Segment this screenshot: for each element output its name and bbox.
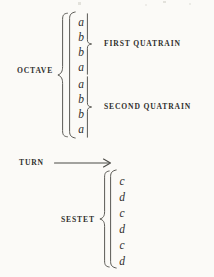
sestet-rhyme-3: c (116, 208, 128, 220)
first-quatrain-brace (86, 13, 95, 75)
second-quatrain-brace (86, 76, 95, 138)
first-quatrain-label: FIRST QUATRAIN (104, 39, 181, 48)
second-quatrain-label: SECOND QUATRAIN (104, 102, 191, 111)
sestet-rhyme-1: c (116, 176, 128, 188)
scan-speckle (78, 2, 81, 5)
sestet-rhyme-5: c (116, 240, 128, 252)
sestet-rhyme-2: d (116, 192, 128, 204)
sonnet-structure-diagram: OCTAVE a b b a a b b a FIRST QUATRAIN SE… (0, 0, 214, 277)
sestet-rhyme-6: d (116, 256, 128, 268)
scan-speckle (145, 4, 147, 6)
sestet-rhyme-4: d (116, 224, 128, 236)
turn-label: TURN (19, 158, 44, 167)
turn-right-arrow-icon (54, 157, 116, 169)
octave-label: OCTAVE (17, 66, 53, 75)
sestet-label: SESTET (61, 215, 95, 224)
scan-speckle (163, 1, 166, 3)
scan-speckle (189, 3, 191, 5)
